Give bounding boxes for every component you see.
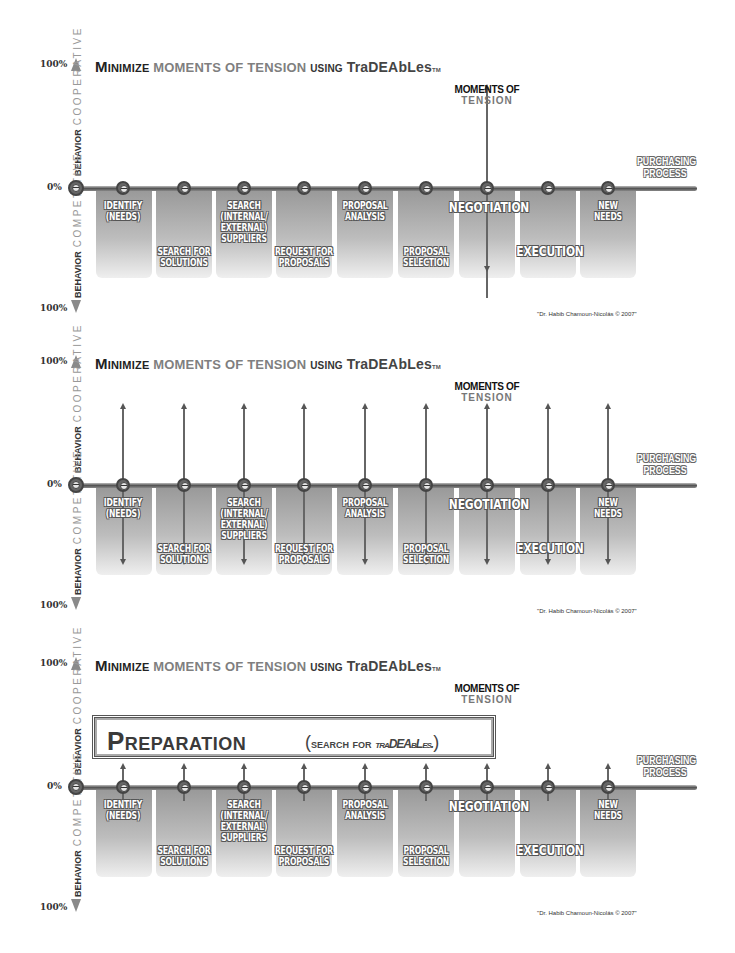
title-part-1: Minimize (95, 657, 149, 674)
zero-percent-label: 0% (47, 781, 62, 791)
purchasing-process-label: PURCHASINGPROCESS (637, 155, 693, 179)
stage-label-line: PROPOSAL (323, 799, 408, 810)
stage-label-line: NEW (566, 200, 651, 211)
title-part-2: MOMENTS OF TENSION (153, 60, 306, 75)
stage-label: NEGOTIATION (447, 200, 532, 215)
process-text: PROCESS (637, 167, 693, 179)
purchasing-text: PURCHASING (637, 452, 693, 464)
purchasing-process-label: PURCHASINGPROCESS (637, 452, 693, 476)
stage-node-icon (297, 780, 311, 794)
tension-text: TENSION (437, 392, 537, 403)
stage-label-line: SUPPLIERS (202, 832, 287, 843)
diagram-title: Minimize MOMENTS OF TENSION using TraDEA… (95, 58, 441, 75)
stage-node-icon (358, 181, 372, 195)
arrow-down-icon (120, 559, 126, 565)
stage-label-line: IDENTIFY (81, 200, 166, 211)
origin-node-icon (68, 779, 84, 795)
behavior-text: BEHAVIOR (73, 850, 83, 897)
arrow-down-icon (241, 559, 247, 565)
top-percent-label: 100% (40, 356, 67, 366)
stage-label: EXECUTION (508, 541, 593, 556)
arrow-up-icon (120, 763, 126, 769)
stage-node-icon (116, 181, 130, 195)
stage-label-line: (INTERNAL/ (202, 508, 287, 519)
stage-label: SEARCH(INTERNAL/EXTERNAL)SUPPLIERS (202, 497, 287, 541)
origin-node-icon (68, 180, 84, 196)
tension-text: TENSION (437, 694, 537, 705)
stage-label-line: REQUEST FOR (262, 543, 347, 554)
moments-of-text: MOMENTS OF (437, 683, 537, 694)
stage-label: SEARCH FORSOLUTIONS (142, 246, 227, 268)
stage-label-line: (INTERNAL/ (202, 810, 287, 821)
stage-node-icon (116, 478, 130, 492)
arrow-up-icon (545, 403, 551, 409)
tension-text: TENSION (437, 95, 537, 106)
stage-label: REQUEST FORPROPOSALS (262, 543, 347, 565)
bottom-percent-label: 100% (40, 600, 67, 610)
stage-label-line: NEW (566, 799, 651, 810)
stage-label: IDENTIFY(NEEDS) (81, 200, 166, 222)
arrow-up-icon (181, 403, 187, 409)
arrow-up-icon (362, 403, 368, 409)
stage-label: PROPOSALANALYSIS (323, 497, 408, 519)
stage-label-line: SEARCH FOR (142, 246, 227, 257)
arrow-up-icon (605, 403, 611, 409)
zero-percent-label: 0% (47, 479, 62, 489)
stage-label-line: ANALYSIS (323, 211, 408, 222)
title-part-3: using (310, 59, 343, 75)
moments-of-tension-label: MOMENTS OFTENSION (437, 381, 537, 403)
stage-label-line: SEARCH FOR (142, 543, 227, 554)
arrow-up-icon (423, 763, 429, 769)
stage-node-icon (601, 181, 615, 195)
stage-node-icon (177, 181, 191, 195)
stage-label-line: PROPOSAL (323, 497, 408, 508)
stage-label-line: ANALYSIS (323, 508, 408, 519)
stage-label-line: SEARCH (202, 497, 287, 508)
stage-label-line: EXECUTION (508, 244, 593, 259)
stage-label: PROPOSALSELECTION (384, 246, 469, 268)
stage-label-line: EXECUTION (508, 843, 593, 858)
down-triangle-icon (71, 899, 81, 912)
stage-label-line: IDENTIFY (81, 799, 166, 810)
arrow-up-icon (301, 403, 307, 409)
arrow-down-icon (484, 266, 490, 272)
stage-label: NEGOTIATION (447, 799, 532, 814)
arrow-down-icon (484, 559, 490, 565)
stage-label: SEARCH FORSOLUTIONS (142, 543, 227, 565)
stage-node-icon (297, 181, 311, 195)
stage-label: PROPOSALSELECTION (384, 543, 469, 565)
copyright-credit: "Dr. Habib Chamoun-Nicolás © 2007" (537, 311, 637, 317)
purchasing-process-label: PURCHASINGPROCESS (637, 754, 693, 778)
stage-label-line: EXTERNAL) (202, 222, 287, 233)
title-part-4: TraDEAbLes (347, 356, 432, 372)
stage-label: IDENTIFY(NEEDS) (81, 497, 166, 519)
zero-percent-label: 0% (47, 182, 62, 192)
arrow-up-icon (181, 763, 187, 769)
stage-label-line: PROPOSALS (262, 856, 347, 867)
stage-label-line: SELECTION (384, 856, 469, 867)
stage-label-line: NEEDS (566, 508, 651, 519)
stage-label: SEARCH(INTERNAL/EXTERNAL)SUPPLIERS (202, 200, 287, 244)
title-part-1: Minimize (95, 58, 149, 75)
stage-label-line: SUPPLIERS (202, 530, 287, 541)
stage-node-icon (177, 478, 191, 492)
arrow-up-icon (484, 403, 490, 409)
diagram-title: Minimize MOMENTS OF TENSION using TraDEA… (95, 657, 441, 674)
arrow-up-icon (241, 403, 247, 409)
stage-label-line: PROPOSALS (262, 257, 347, 268)
competitive-behavior-label: BEHAVIORCOMPETITIVE (67, 152, 85, 298)
stage-label-line: PROPOSAL (384, 845, 469, 856)
stage-label: IDENTIFY(NEEDS) (81, 799, 166, 821)
stage-label-line: REQUEST FOR (262, 845, 347, 856)
stage-label: NEWNEEDS (566, 799, 651, 821)
stage-label-line: (INTERNAL/ (202, 211, 287, 222)
moments-of-text: MOMENTS OF (437, 84, 537, 95)
arrow-up-icon (362, 763, 368, 769)
process-text: PROCESS (637, 464, 693, 476)
bottom-percent-label: 100% (40, 303, 67, 313)
stage-label: EXECUTION (508, 244, 593, 259)
stage-label-line: SELECTION (384, 257, 469, 268)
stage-label-line: SOLUTIONS (142, 554, 227, 565)
stage-label-line: (NEEDS) (81, 211, 166, 222)
stage-label-line: PROPOSAL (323, 200, 408, 211)
